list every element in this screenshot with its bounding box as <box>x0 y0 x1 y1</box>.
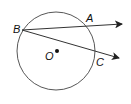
ray-ba <box>22 24 122 30</box>
label-b: B <box>13 23 20 35</box>
label-a: A <box>85 12 93 24</box>
ray-bc <box>22 30 119 58</box>
label-c: C <box>96 56 104 68</box>
geometry-diagram: B A C O <box>0 0 131 104</box>
center-point-o <box>55 49 59 53</box>
label-o: O <box>45 50 54 62</box>
